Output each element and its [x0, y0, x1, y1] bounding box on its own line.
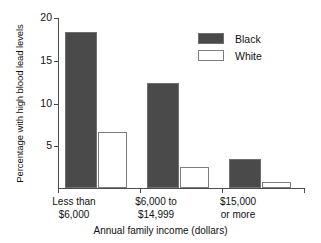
legend-swatch-black-icon	[198, 33, 224, 44]
x-tick-1	[140, 188, 141, 193]
x-axis-spine	[58, 188, 305, 189]
y-tick-10: 10	[58, 104, 59, 105]
legend-label-black: Black	[235, 33, 261, 45]
x-category-label-0-line2: $6,000	[36, 209, 112, 222]
x-category-label-1-line1: $6,000 to	[118, 196, 194, 209]
y-tick-5: 5	[58, 146, 59, 147]
bar-chart-figure: Percentage with high blood lead levels 2…	[0, 0, 321, 243]
y-axis-title: Percentage with high blood lead levels	[14, 14, 25, 194]
x-category-label-0-line1: Less than	[36, 196, 112, 209]
y-tick-15: 15	[58, 61, 59, 62]
x-tick-2	[222, 188, 223, 193]
y-tick-label-15: 15	[30, 54, 52, 67]
bar-black-15000-or-more	[229, 159, 261, 188]
bar-black-6000-to-14999	[147, 83, 179, 188]
x-category-label-1-line2: $14,999	[118, 209, 194, 222]
x-category-label-1: $6,000 to $14,999	[118, 196, 194, 221]
legend-swatch-white-icon	[198, 50, 224, 61]
y-tick-label-20: 20	[30, 11, 52, 24]
bar-white-15000-or-more	[262, 182, 291, 188]
plot-area: 20 15 10 5	[58, 18, 305, 189]
y-tick-label-10: 10	[30, 97, 52, 110]
x-category-label-2-line1: $15,000	[200, 196, 276, 209]
legend-item-white: White	[198, 47, 262, 64]
y-tick-label-5: 5	[30, 139, 52, 152]
x-tick-0	[58, 188, 59, 193]
chart-legend: Black White	[198, 30, 262, 64]
x-axis-title: Annual family income (dollars)	[0, 225, 321, 236]
x-tick-3	[304, 188, 305, 193]
bar-black-less-than-6000	[65, 32, 97, 188]
bar-white-less-than-6000	[98, 132, 127, 188]
x-category-label-2-line2: or more	[200, 209, 276, 222]
y-tick-20: 20	[58, 18, 59, 19]
x-category-label-2: $15,000 or more	[200, 196, 276, 221]
legend-item-black: Black	[198, 30, 262, 47]
bar-white-6000-to-14999	[180, 167, 209, 188]
legend-label-white: White	[235, 50, 262, 62]
x-category-label-0: Less than $6,000	[36, 196, 112, 221]
